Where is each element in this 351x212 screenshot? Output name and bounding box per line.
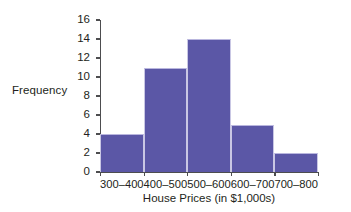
y-tick-label: 16	[77, 14, 90, 26]
y-tick-label: 2	[84, 147, 90, 159]
y-tick-label: 12	[77, 52, 90, 64]
x-tick-mark	[318, 172, 319, 176]
histogram-figure: Frequency 0246810121416 300–400400–50050…	[0, 0, 351, 212]
bar-400–500	[144, 68, 188, 173]
x-tick-labels: 300–400400–500500–600600–700700–800	[100, 177, 318, 193]
y-tick-label: 10	[77, 71, 90, 83]
x-tick-label-700–800: 700–800	[268, 177, 324, 191]
y-tick-label: 4	[84, 128, 90, 140]
bars-group	[100, 20, 318, 172]
x-axis-label: House Prices (in $1,000s)	[100, 192, 318, 204]
bar-700–800	[274, 153, 318, 172]
bar-300–400	[100, 134, 144, 172]
y-tick-label: 8	[84, 90, 90, 102]
x-tick-mark	[274, 172, 275, 176]
x-tick-mark	[144, 172, 145, 176]
x-tick-mark	[100, 172, 101, 176]
x-tick-mark	[231, 172, 232, 176]
x-tick-mark	[187, 172, 188, 176]
y-tick-label: 14	[77, 33, 90, 45]
bar-500–600	[187, 39, 231, 172]
y-tick-label: 6	[84, 109, 90, 121]
y-tick-label: 0	[84, 166, 90, 178]
y-axis-label: Frequency	[12, 84, 67, 96]
bar-600–700	[231, 125, 275, 173]
